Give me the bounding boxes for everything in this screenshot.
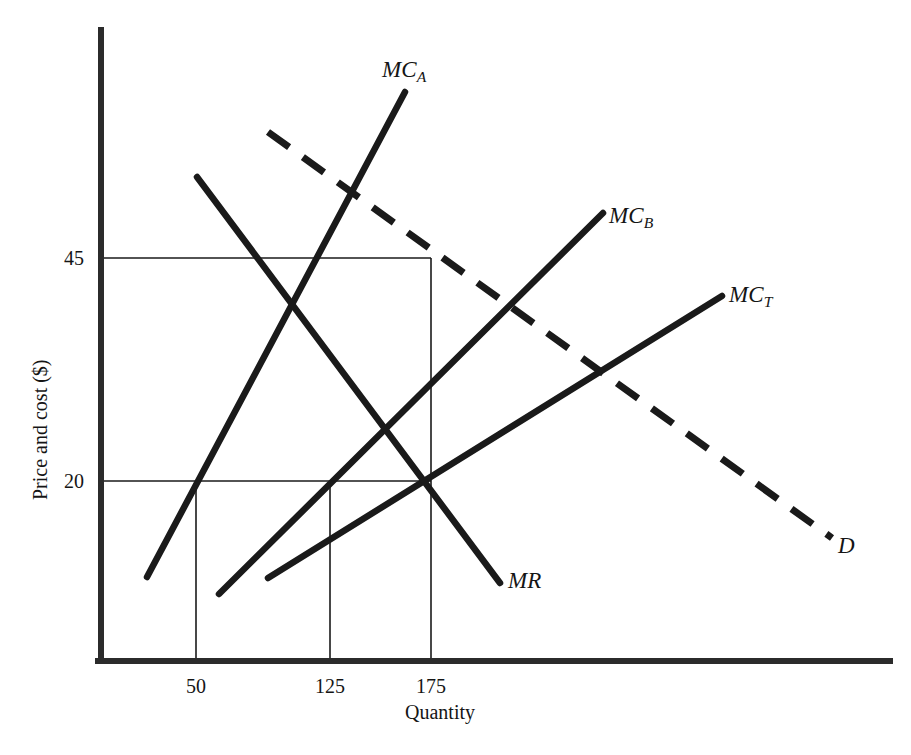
x-tick-label-125: 125 bbox=[300, 676, 360, 696]
guide-lines bbox=[101, 258, 431, 661]
curve-mr bbox=[197, 177, 500, 583]
axis-lines bbox=[98, 30, 890, 661]
curve-label-mc-t-base: MC bbox=[729, 282, 764, 307]
x-tick-label-175: 175 bbox=[401, 676, 461, 696]
x-tick-label-50: 50 bbox=[166, 676, 226, 696]
curve-label-mc-a-base: MC bbox=[382, 57, 417, 82]
curve-mc-t bbox=[268, 296, 722, 578]
curve-label-mc-b-sub: B bbox=[644, 214, 654, 231]
curve-label-mc-t: MCT bbox=[729, 283, 772, 306]
y-tick-label-45: 45 bbox=[44, 248, 84, 268]
chart-plot-area bbox=[0, 0, 911, 755]
curve-demand bbox=[268, 132, 832, 538]
curve-label-mr: MR bbox=[508, 569, 541, 592]
curve-label-demand: D bbox=[838, 534, 855, 557]
y-axis-title: Price and cost ($) bbox=[30, 359, 50, 500]
curve-mc-a bbox=[147, 92, 405, 577]
curve-label-mc-b: MCB bbox=[609, 204, 653, 227]
curve-label-mc-b-base: MC bbox=[609, 203, 644, 228]
curve-label-mc-t-sub: T bbox=[764, 293, 773, 310]
x-axis-title: Quantity bbox=[405, 702, 475, 722]
curve-label-mc-a-sub: A bbox=[417, 68, 427, 85]
curve-label-mc-a: MCA bbox=[382, 58, 426, 81]
curves bbox=[147, 92, 832, 594]
chart-figure: 45 20 50 125 175 Price and cost ($) Quan… bbox=[0, 0, 911, 755]
